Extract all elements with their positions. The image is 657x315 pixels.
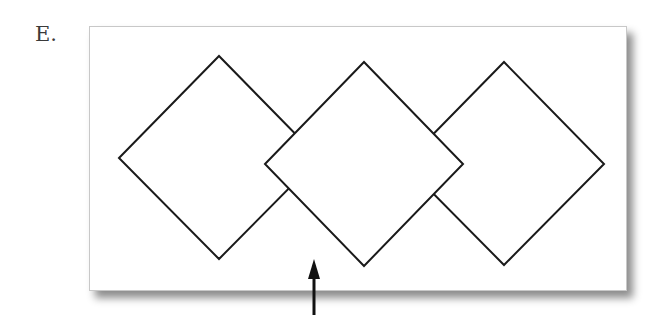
up-arrow-icon	[308, 259, 320, 315]
middle-diamond	[265, 62, 463, 266]
diamond-diagram	[0, 0, 657, 315]
